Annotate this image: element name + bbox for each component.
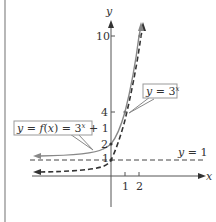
y-axis-label: y bbox=[105, 5, 113, 18]
point-1-4 bbox=[123, 110, 126, 113]
tick-label-x2: 2 bbox=[136, 180, 143, 193]
y-axis-arrow-icon bbox=[108, 20, 114, 28]
tick-label-4: 4 bbox=[101, 106, 108, 119]
tick-label-2: 2 bbox=[101, 138, 108, 151]
curve-f-left-arrow-icon bbox=[33, 153, 41, 159]
asymptote-label: y = 1 bbox=[177, 146, 207, 159]
callout-f: y = f(x) = 3x + 1 bbox=[14, 121, 109, 150]
callout-3-pow-x: y = 3x bbox=[129, 84, 179, 113]
axes bbox=[32, 20, 206, 207]
svg-text:y = f(x) = 3x + 1: y = f(x) = 3x + 1 bbox=[16, 122, 109, 135]
point-0-2 bbox=[109, 142, 112, 145]
curve-f bbox=[40, 26, 141, 156]
tick-label-10: 10 bbox=[96, 30, 110, 43]
svg-text:y = 3x: y = 3x bbox=[145, 85, 179, 98]
x-axis-label: x bbox=[206, 170, 213, 183]
exponential-graph: y x 10 4 2 1 1 2 y = 1 y = 3x y = f(x) =… bbox=[0, 0, 216, 222]
x-axis-arrow-icon bbox=[198, 173, 206, 179]
point-0-1 bbox=[109, 158, 112, 161]
point-2-10 bbox=[138, 34, 141, 37]
tick-label-1: 1 bbox=[102, 152, 109, 165]
curve-3-pow-x-left-arrow-icon bbox=[33, 169, 41, 175]
tick-label-x1: 1 bbox=[122, 180, 129, 193]
